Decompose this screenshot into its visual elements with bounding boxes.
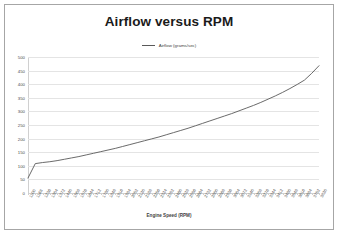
y-tick-label: 200 bbox=[18, 136, 25, 141]
y-tick-label: 450 bbox=[18, 68, 25, 73]
y-tick-label: 50 bbox=[20, 177, 25, 182]
legend-label: Airflow (grams/sec) bbox=[159, 43, 197, 48]
chart-title: Airflow versus RPM bbox=[5, 14, 333, 29]
plot-wrapper: 050100150200250300350400450500 110011681… bbox=[28, 57, 319, 193]
y-tick-label: 350 bbox=[18, 95, 25, 100]
legend-line-swatch bbox=[142, 45, 155, 46]
x-axis-title: Engine Speed (RPM) bbox=[5, 213, 333, 218]
chart-frame: Airflow versus RPM Airflow (grams/sec) 0… bbox=[4, 4, 334, 230]
series-line bbox=[28, 57, 319, 193]
chart-legend: Airflow (grams/sec) bbox=[5, 43, 333, 48]
y-tick-label: 250 bbox=[18, 123, 25, 128]
y-tick-label: 500 bbox=[18, 55, 25, 60]
y-tick-label: 0 bbox=[23, 191, 25, 196]
plot-area: 050100150200250300350400450500 110011681… bbox=[28, 57, 319, 193]
y-tick-label: 300 bbox=[18, 109, 25, 114]
y-tick-label: 400 bbox=[18, 82, 25, 87]
y-tick-label: 150 bbox=[18, 150, 25, 155]
y-tick-label: 100 bbox=[18, 163, 25, 168]
